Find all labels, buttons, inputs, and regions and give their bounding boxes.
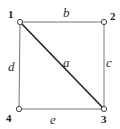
edge-a (20, 22, 104, 109)
node-2-circle-icon (101, 19, 106, 24)
graph-diagram: abcde 1234 (0, 0, 120, 129)
node-label-3: 3 (101, 113, 107, 125)
node-label-2: 2 (110, 10, 116, 22)
edges: abcde (8, 5, 112, 127)
node-label-1: 1 (8, 8, 14, 20)
node-3-circle-icon (101, 106, 106, 111)
edge-d (19, 22, 20, 109)
edge-label-b: b (63, 5, 70, 20)
edge-label-d: d (8, 59, 15, 74)
node-label-4: 4 (6, 112, 12, 124)
node-4-circle-icon (16, 106, 21, 111)
edge-label-e: e (50, 112, 56, 127)
edge-label-c: c (106, 55, 112, 70)
edge-label-a: a (63, 55, 70, 70)
node-1-circle-icon (17, 19, 22, 24)
